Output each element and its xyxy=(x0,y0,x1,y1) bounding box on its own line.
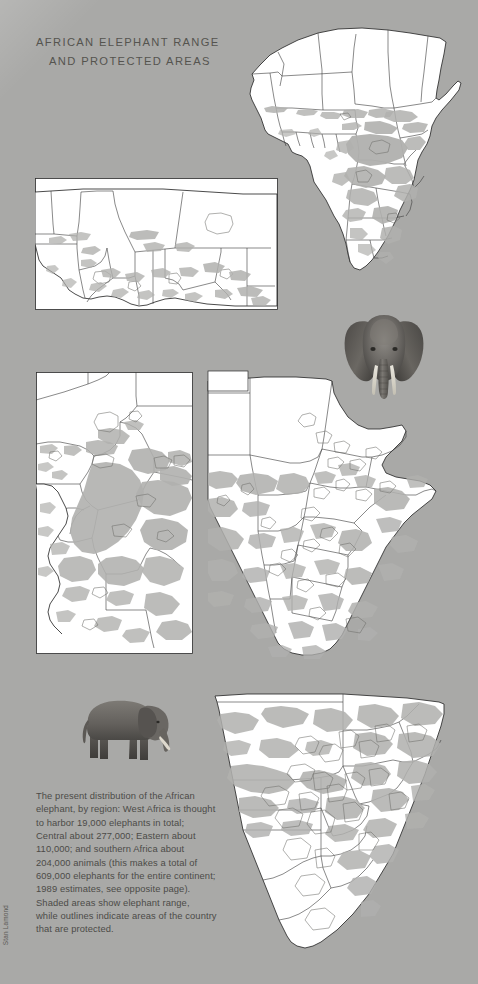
caption-line: elephant, by region: West Africa is thou… xyxy=(36,802,232,815)
elephant-right-eye xyxy=(392,347,397,351)
caption-line: while outlines indicate areas of the cou… xyxy=(36,909,232,922)
elephant-side-eye xyxy=(156,721,159,724)
eastern-africa-landmass xyxy=(208,377,436,655)
photo-credit: Stan Lamond xyxy=(2,905,9,945)
caption-line: to harbor 19,000 elephants in total; xyxy=(36,816,232,829)
elephant-body-illustration xyxy=(74,688,174,762)
elephant-left-eye xyxy=(370,347,375,351)
map-eastern-africa xyxy=(206,369,440,661)
title-line-1: AFRICAN ELEPHANT RANGE xyxy=(36,36,220,48)
map-west-africa xyxy=(35,178,278,310)
caption-line: 204,000 animals (this makes a total of xyxy=(36,856,232,869)
map-central-africa xyxy=(36,372,193,654)
eastern-africa-inset-corner xyxy=(208,371,248,391)
caption-block: The present distribution of the African … xyxy=(36,789,232,936)
map-southern-africa xyxy=(203,686,446,976)
caption-line: that are protected. xyxy=(36,922,232,935)
elephant-head-illustration xyxy=(342,307,426,399)
map-page: AFRICAN ELEPHANT RANGE AND PROTECTED ARE… xyxy=(0,0,478,984)
caption-line: 1989 estimates, see opposite page). xyxy=(36,882,232,895)
caption-line: The present distribution of the African xyxy=(36,789,232,802)
caption-line: 110,000; and southern Africa about xyxy=(36,842,232,855)
caption-line: Shaded areas show elephant range, xyxy=(36,896,232,909)
caption-line: Central about 277,000; Eastern about xyxy=(36,829,232,842)
caption-line: 609,000 elephants for the entire contine… xyxy=(36,869,232,882)
